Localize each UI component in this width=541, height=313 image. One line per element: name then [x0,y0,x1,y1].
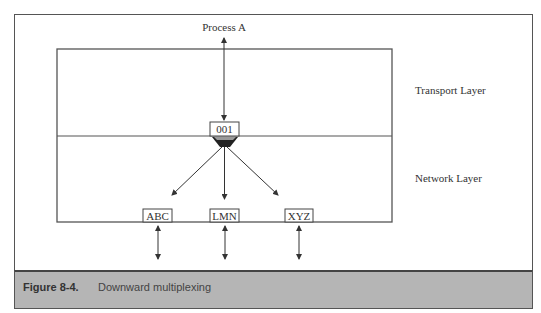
fanout-arrow-right [227,147,278,195]
figure-number: Figure 8-4. [23,281,79,293]
network-layer-label: Network Layer [415,172,482,184]
svg-text:LMN: LMN [212,210,237,222]
connection-box-xyz: XYZ [285,209,313,222]
fanout-arrow-left [172,147,222,195]
figure-title: Downward multiplexing [98,281,211,293]
port-box: 001 [210,122,239,136]
svg-text:ABC: ABC [146,210,169,222]
svg-text:XYZ: XYZ [288,210,311,222]
connection-box-abc: ABC [143,209,172,222]
figure-caption: Figure 8-4. Downward multiplexing [14,270,533,309]
multiplexer-funnel-icon [212,137,238,147]
multiplexing-diagram: Process A Transport Layer Network Layer … [0,0,541,313]
process-label: Process A [202,21,246,33]
connection-box-lmn: LMN [210,209,239,222]
port-label: 001 [216,123,233,135]
transport-layer-label: Transport Layer [415,84,486,96]
